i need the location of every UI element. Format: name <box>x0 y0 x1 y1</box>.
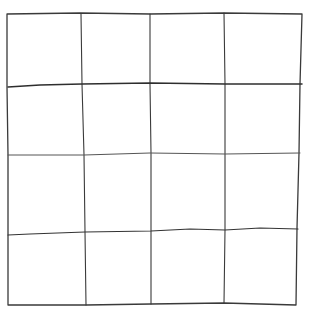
grid-outline <box>7 13 302 305</box>
hand-drawn-grid <box>0 0 312 313</box>
horizontal-line-2 <box>8 153 300 155</box>
horizontal-line-1 <box>8 83 302 87</box>
horizontal-line-3 <box>8 228 298 235</box>
vertical-line-2 <box>150 14 151 304</box>
vertical-line-3 <box>224 13 225 303</box>
vertical-line-1 <box>81 14 86 305</box>
